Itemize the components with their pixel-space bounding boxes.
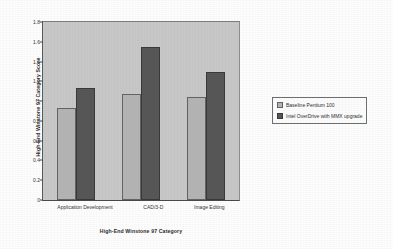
legend-item: Baseline Pentium 100 xyxy=(277,102,362,108)
y-axis-tick-label: 1.2 xyxy=(33,79,43,84)
y-axis-tick-label: 0.4 xyxy=(33,158,43,163)
chart-legend: Baseline Pentium 100Intel OverDrive with… xyxy=(272,97,367,124)
legend-label: Intel OverDrive with MMX upgrade xyxy=(286,114,362,119)
bar-groups xyxy=(43,22,239,200)
bar-group xyxy=(187,22,225,200)
x-axis-tick-labels: Application DevelopmentCAD/3-DImage Edit… xyxy=(42,204,240,210)
y-axis-tick-label: 0.6 xyxy=(33,138,43,143)
y-axis-tick-label: 1.6 xyxy=(33,39,43,44)
bar xyxy=(76,88,95,200)
bar xyxy=(141,47,160,200)
y-axis-title: High-End Winstone 97 Category Score xyxy=(35,27,41,187)
x-axis-title: High-End Winstone 97 Category xyxy=(42,228,240,234)
bar xyxy=(57,108,76,200)
bar-group xyxy=(122,22,160,200)
y-axis-tick-label: 1.8 xyxy=(33,20,43,25)
bar-group xyxy=(57,22,95,200)
y-axis-tick-label: 0.2 xyxy=(33,178,43,183)
x-axis-tick-label: Application Development xyxy=(57,204,112,210)
plot-area: 00.20.40.60.811.21.41.61.8 xyxy=(42,21,240,201)
x-axis-tick-label: CAD/3-D xyxy=(143,204,163,210)
legend-swatch-icon xyxy=(277,102,283,108)
legend-item: Intel OverDrive with MMX upgrade xyxy=(277,113,362,119)
bar xyxy=(187,97,206,200)
bar xyxy=(122,94,141,200)
chart-figure: High-End Winstone 97 Category Score 00.2… xyxy=(0,0,393,249)
bar xyxy=(206,72,225,200)
legend-label: Baseline Pentium 100 xyxy=(286,103,335,108)
y-axis-tick-label: 1.4 xyxy=(33,59,43,64)
legend-swatch-icon xyxy=(277,113,283,119)
y-axis-tick-label: 0.8 xyxy=(33,118,43,123)
x-axis-tick-label: Image Editing xyxy=(194,204,225,210)
